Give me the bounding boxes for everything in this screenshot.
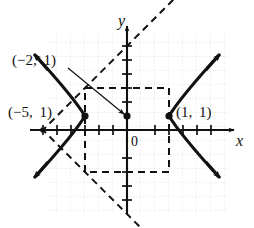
left-vertex-marker <box>81 112 88 119</box>
x-axis-label: x <box>235 132 243 149</box>
origin-label: 0 <box>131 134 138 149</box>
left-branch-lower-arrow <box>34 162 48 178</box>
coordinate-grid <box>46 32 228 214</box>
hyperbola-figure: (−2, 1) (−5, 1) (1, 1) y x 0 <box>0 0 254 228</box>
center-label: (−2, 1) <box>12 52 56 69</box>
center-point-marker <box>123 112 130 119</box>
right-vertex-marker <box>165 112 172 119</box>
right-vertex-label: (1, 1) <box>176 104 212 121</box>
y-axis-label: y <box>116 12 126 30</box>
left-vertex-label: (−5, 1) <box>8 104 52 121</box>
graph-canvas: (−2, 1) (−5, 1) (1, 1) y x 0 <box>0 0 254 228</box>
